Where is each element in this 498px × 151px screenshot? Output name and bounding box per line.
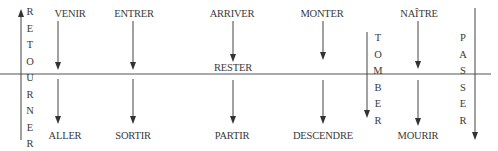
- letter: O: [372, 49, 384, 66]
- letter: R: [24, 6, 36, 23]
- verb-aller: ALLER: [49, 130, 82, 142]
- letter: E: [457, 98, 469, 115]
- vertical-word-tomber: T O M B E R: [372, 32, 384, 131]
- verb-mourir: MOURIR: [398, 130, 439, 142]
- verb-sortir: SORTIR: [115, 130, 151, 142]
- letter: E: [24, 122, 36, 139]
- letter: T: [24, 39, 36, 56]
- arrow-down-icon: [472, 132, 478, 140]
- letter: P: [457, 32, 469, 49]
- letter: S: [457, 65, 469, 82]
- letter: N: [24, 105, 36, 122]
- letter: S: [457, 82, 469, 99]
- letter: U: [24, 72, 36, 89]
- letter: O: [24, 56, 36, 73]
- letter: R: [24, 89, 36, 106]
- bottom-arrows: [55, 79, 421, 126]
- verb-diagram: VENIR ENTRER ARRIVER MONTER NAÎTRE RESTE…: [0, 0, 498, 151]
- vertical-word-retourner: R E T O U R N E R: [24, 6, 36, 151]
- verb-monter: MONTER: [300, 8, 343, 20]
- letter: T: [372, 32, 384, 49]
- letter: E: [372, 98, 384, 115]
- verb-rester: RESTER: [214, 62, 252, 74]
- verb-naitre: NAÎTRE: [400, 8, 437, 20]
- letter: R: [457, 115, 469, 132]
- letter: A: [457, 49, 469, 66]
- letter: M: [372, 65, 384, 82]
- verb-entrer: ENTRER: [114, 8, 154, 20]
- verb-arriver: ARRIVER: [210, 8, 255, 20]
- arrow-down-icon: [364, 110, 370, 118]
- vertical-word-passer: P A S S E R: [457, 32, 469, 131]
- diagram-lines: [0, 0, 498, 151]
- letter: R: [24, 138, 36, 151]
- letter: B: [372, 82, 384, 99]
- verb-partir: PARTIR: [215, 130, 250, 142]
- verb-venir: VENIR: [54, 8, 85, 20]
- letter: E: [24, 23, 36, 40]
- verb-descendre: DESCENDRE: [293, 130, 353, 142]
- letter: R: [372, 115, 384, 132]
